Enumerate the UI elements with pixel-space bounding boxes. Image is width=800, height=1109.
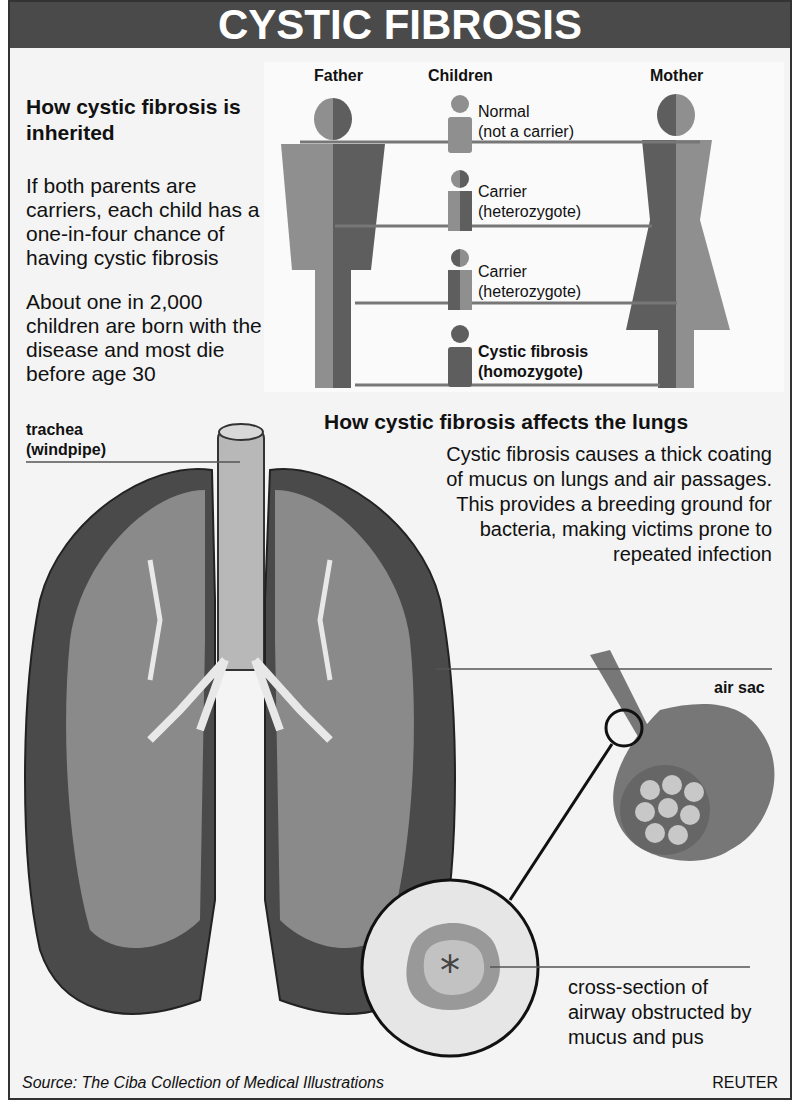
child-label-cystic-fibrosis: Cystic fibrosis (homozygote) xyxy=(478,342,588,382)
mother-header: Mother xyxy=(650,67,703,85)
lungs-heading: How cystic fibrosis affects the lungs xyxy=(324,410,688,434)
air-sac-label: air sac xyxy=(714,678,765,698)
father-header: Father xyxy=(314,67,363,85)
child-sublabel-text: (homozygote) xyxy=(478,362,588,382)
child-sublabel-text: (not a carrier) xyxy=(478,122,574,142)
child-label-carrier-1: Carrier (heterozygote) xyxy=(478,182,581,222)
trachea-sublabel-text: (windpipe) xyxy=(26,440,106,460)
trachea-label-text: trachea xyxy=(26,420,106,440)
lungs-description: Cystic fibrosis causes a thick coating o… xyxy=(442,442,772,567)
child-carrier-1-icon xyxy=(448,170,472,231)
child-cystic-fibrosis-icon xyxy=(448,325,472,387)
child-label-text: Normal xyxy=(478,102,574,122)
child-normal-icon xyxy=(448,95,472,153)
magnifier-connector-line xyxy=(510,744,612,900)
inheritance-heading: How cystic fibrosis is inherited xyxy=(26,94,246,146)
agency-credit: REUTER xyxy=(712,1074,778,1092)
child-sublabel-text: (heterozygote) xyxy=(478,282,581,302)
child-label-text: Carrier xyxy=(478,262,581,282)
child-label-normal: Normal (not a carrier) xyxy=(478,102,574,142)
cross-section-label: cross-section of airway obstructed by mu… xyxy=(568,975,768,1050)
airway-cross-section-icon: * xyxy=(362,880,538,1056)
child-sublabel-text: (heterozygote) xyxy=(478,202,581,222)
children-header: Children xyxy=(428,67,493,85)
child-label-carrier-2: Carrier (heterozygote) xyxy=(478,262,581,302)
inheritance-paragraph-2: About one in 2,000 children are born wit… xyxy=(26,290,266,386)
child-label-text: Carrier xyxy=(478,182,581,202)
trachea-label: trachea (windpipe) xyxy=(26,420,106,460)
source-credit: Source: The Ciba Collection of Medical I… xyxy=(22,1074,384,1092)
child-carrier-2-icon xyxy=(448,249,472,310)
child-label-text: Cystic fibrosis xyxy=(478,342,588,362)
inheritance-paragraph-1: If both parents are carriers, each child… xyxy=(26,174,266,270)
svg-text:*: * xyxy=(440,948,460,994)
